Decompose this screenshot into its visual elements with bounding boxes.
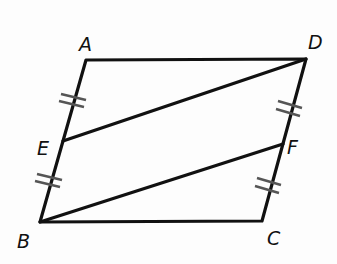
parallelogram-figure: A D E F B C (0, 0, 337, 264)
segment-de (63, 59, 306, 141)
segment-bf (40, 144, 283, 222)
tick-marks-df (276, 101, 302, 116)
geometry-diagram: A D E F B C (0, 0, 337, 264)
label-d: D (308, 31, 323, 53)
label-b: B (17, 230, 30, 252)
parallelogram-abcd (40, 59, 306, 222)
label-e: E (37, 137, 49, 159)
tick-marks-fc (255, 178, 281, 193)
tick-marks-eb (35, 174, 62, 187)
label-a: A (77, 33, 92, 55)
tick-marks-ae (59, 94, 86, 107)
label-c: C (267, 227, 281, 249)
label-f: F (287, 136, 299, 158)
